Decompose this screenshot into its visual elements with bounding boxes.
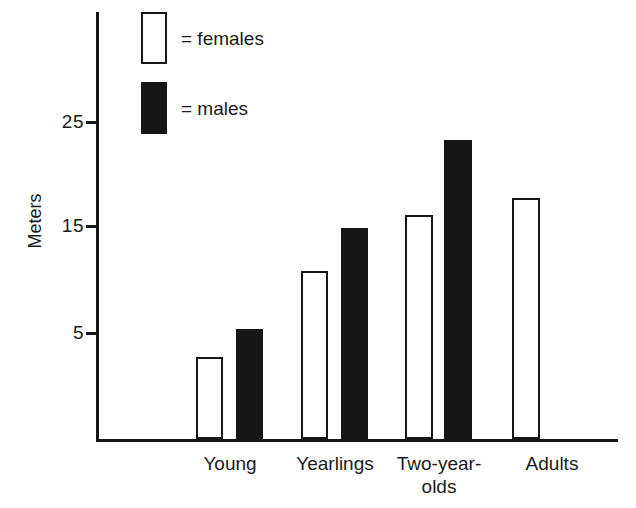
y-tick-label-5-wrap: 5 bbox=[0, 323, 84, 343]
bar-two-year-olds-females bbox=[405, 215, 433, 439]
legend-swatch-females-icon bbox=[141, 12, 167, 64]
legend-label-males: = males bbox=[181, 99, 248, 118]
y-tick-label-5: 5 bbox=[0, 323, 84, 342]
legend-item-males: = males bbox=[141, 82, 248, 134]
legend-swatch-males-icon bbox=[141, 82, 167, 134]
legend-label-females: = females bbox=[181, 29, 264, 48]
bar-yearlings-females bbox=[301, 271, 328, 439]
bar-chart: Meters 25 15 5 Young Yearlings Two-year-… bbox=[0, 0, 636, 508]
y-tick-label-15-wrap: 15 bbox=[0, 216, 84, 236]
y-tick-label-15: 15 bbox=[0, 216, 84, 235]
y-tick-label-25: 25 bbox=[0, 112, 84, 131]
y-tick-mark-25 bbox=[86, 121, 97, 124]
bar-young-males bbox=[236, 329, 263, 439]
bar-two-year-olds-males bbox=[444, 140, 472, 439]
y-tick-mark-15 bbox=[86, 225, 97, 228]
legend-item-females: = females bbox=[141, 12, 264, 64]
x-axis-line bbox=[96, 439, 618, 442]
category-label-two-year-olds: Two-year- olds bbox=[372, 452, 506, 498]
y-tick-mark-5 bbox=[86, 332, 97, 335]
bar-yearlings-males bbox=[341, 228, 368, 439]
bar-adults-females bbox=[512, 198, 540, 439]
y-tick-label-25-wrap: 25 bbox=[0, 112, 84, 132]
bar-young-females bbox=[196, 357, 223, 439]
category-label-adults: Adults bbox=[487, 452, 617, 475]
